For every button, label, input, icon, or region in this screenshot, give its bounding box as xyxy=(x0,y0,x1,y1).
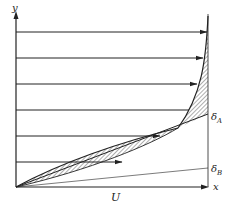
delta-a-line xyxy=(16,114,208,187)
x-axis-label: x xyxy=(213,181,219,192)
hatched-region-upper xyxy=(178,22,208,128)
velocity-profile-curve xyxy=(16,16,208,187)
delta-a-label: δA xyxy=(211,111,222,125)
delta-b-label: δB xyxy=(211,163,222,177)
boundary-layer-diagram: y x δA δB U xyxy=(0,0,231,209)
y-axis-label: y xyxy=(11,2,18,13)
freestream-velocity-label: U xyxy=(111,191,121,204)
